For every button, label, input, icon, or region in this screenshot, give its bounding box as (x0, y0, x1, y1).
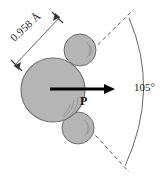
bond-angle-label: 105° (134, 82, 155, 93)
dipole-moment-label: P (80, 95, 87, 107)
hydrogen-atom-upper (64, 34, 96, 66)
water-dipole-figure: 0.958 Å P 105° (0, 0, 166, 179)
dipole-arrow-head (104, 84, 115, 94)
